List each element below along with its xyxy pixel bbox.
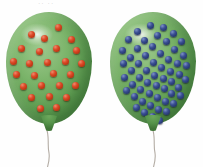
right-balloon-particle: [170, 30, 177, 37]
left-balloon-particle: [28, 31, 35, 38]
right-balloon-particle: [139, 98, 146, 105]
right-balloon-particle: [131, 93, 138, 100]
left-balloon-particle: [18, 45, 25, 52]
left-balloon-particle: [26, 60, 33, 67]
right-balloon-particle: [136, 74, 143, 81]
left-balloon-particle: [56, 82, 63, 89]
right-balloon-particle: [177, 92, 184, 99]
right-balloon-particle: [147, 22, 154, 29]
right-balloon-particle: [165, 56, 172, 63]
right-balloon-particle: [171, 46, 178, 53]
right-balloon-particle: [158, 64, 165, 71]
right-balloon-particle: [128, 67, 135, 74]
right-balloon-particle: [183, 62, 190, 69]
right-balloon-particle: [142, 52, 149, 59]
left-balloon-particle: [10, 58, 17, 65]
right-balloon-string: [140, 127, 170, 167]
left-balloon-particle: [53, 104, 60, 111]
right-balloon-particle: [168, 90, 175, 97]
left-balloon-particle: [38, 82, 45, 89]
right-balloon-particle: [141, 37, 148, 44]
left-balloon-body: [6, 12, 92, 124]
right-balloon-particle: [161, 85, 168, 92]
right-balloon-particle: [170, 100, 177, 107]
left-balloon-particle: [37, 105, 44, 112]
right-balloon-particle: [162, 98, 169, 105]
left-balloon-particle: [55, 24, 62, 31]
right-balloon-particle: [163, 38, 170, 45]
right-balloon-particle: [154, 94, 161, 101]
scan-artifact-mark: ·· ··: [38, 0, 54, 7]
right-balloon-particle: [155, 106, 162, 113]
figure-canvas: ·· ·· Two green balloons containing diff…: [0, 0, 203, 167]
left-balloon-particle: [53, 45, 60, 52]
right-balloon-particle: [127, 54, 134, 61]
right-balloon-particle: [153, 82, 160, 89]
right-balloon-particle: [180, 52, 187, 59]
right-balloon-particle: [154, 32, 161, 39]
right-balloon-particle: [167, 68, 174, 75]
right-balloon-body: [110, 12, 196, 124]
left-balloon-particle: [46, 93, 53, 100]
right-balloon-particle: [125, 36, 132, 43]
right-balloon-particle: [137, 86, 144, 93]
right-balloon-particle: [168, 78, 175, 85]
right-balloon-particle: [134, 28, 141, 35]
right-balloon-particle: [143, 67, 150, 74]
right-balloon-particle: [121, 74, 128, 81]
right-balloon-particle: [123, 87, 130, 94]
right-balloon-particle: [134, 45, 141, 52]
left-balloon-particle: [50, 70, 57, 77]
left-balloon-string: [34, 127, 64, 167]
right-balloon-particle: [150, 59, 157, 66]
right-balloon-particle: [160, 24, 167, 31]
left-balloon-particle: [41, 35, 48, 42]
right-balloon-particle: [174, 60, 181, 67]
right-balloon-particle: [178, 38, 185, 45]
right-balloon-particle: [146, 90, 153, 97]
right-balloon-particle: [129, 81, 136, 88]
right-balloon-particle: [163, 108, 170, 115]
right-balloon-particle: [135, 60, 142, 67]
right-balloon-particle: [149, 113, 156, 120]
left-balloon-particle: [73, 47, 80, 54]
left-balloon-particle: [67, 71, 74, 78]
right-balloon-particle: [149, 43, 156, 50]
right-balloon-particle: [157, 50, 164, 57]
left-balloon-particle: [28, 94, 35, 101]
left-balloon-particle: [31, 72, 38, 79]
right-balloon-particle: [120, 60, 127, 67]
right-balloon-particle: [133, 104, 140, 111]
right-balloon-particle: [147, 102, 154, 109]
left-balloon-particle: [63, 94, 70, 101]
right-balloon-particle: [144, 79, 151, 86]
right-balloon-particle: [141, 109, 148, 116]
left-balloon-particle: [78, 60, 85, 67]
left-balloon-particle: [72, 82, 79, 89]
left-balloon-particle: [44, 59, 51, 66]
left-balloon-particle: [13, 71, 20, 78]
right-balloon-particle: [156, 117, 163, 124]
left-balloon-particle: [62, 58, 69, 65]
right-balloon-particle: [119, 47, 126, 54]
right-balloon-particle: [160, 75, 167, 82]
right-balloon-particle: [182, 76, 189, 83]
left-balloon-particle: [36, 48, 43, 55]
right-balloon-particle: [151, 72, 158, 79]
left-balloon-particle: [20, 83, 27, 90]
right-balloon-particle: [175, 84, 182, 91]
left-balloon-particle: [68, 36, 75, 43]
